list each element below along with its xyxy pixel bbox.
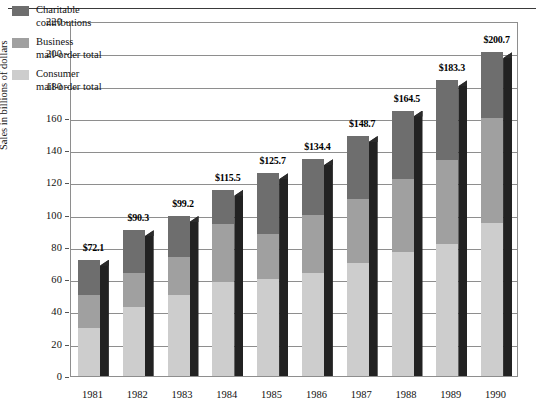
value-label-1986: $134.4 [292,141,343,152]
bar-segment [78,260,100,296]
bar-segment [257,234,279,279]
x-tick-label-1981: 1981 [70,389,115,400]
bar-segment [481,52,503,118]
bar-segment [302,273,324,376]
bar-segment [123,230,145,272]
bar-segment [436,80,458,160]
bar-segment [302,215,324,273]
value-label-1984: $115.5 [202,172,253,183]
bar-side-face-1987 [369,136,378,376]
bar-side-face-1983 [190,216,199,376]
y-tick-mark-40 [65,312,69,313]
bar-segment [212,282,234,376]
value-label-1989: $183.3 [426,62,477,73]
x-tick-label-1986: 1986 [294,389,339,400]
x-tick-label-1988: 1988 [384,389,429,400]
bar-1984[interactable] [212,190,234,376]
bar-side-face-1984 [234,190,243,376]
x-tick-label-1990: 1990 [473,389,518,400]
bar-segment [257,173,279,234]
y-tick-label-100: 100 [0,211,62,221]
bar-segment [123,307,145,376]
y-tick-mark-120 [65,183,69,184]
chart-plot-area [70,22,518,377]
bar-top-face-1985 [279,173,288,179]
bar-1988[interactable] [392,111,414,376]
bar-side-face-1982 [145,230,154,376]
bar-1990[interactable] [481,52,503,376]
legend-swatch-business [12,38,29,48]
bar-1986[interactable] [302,159,324,376]
bar-side-face-1988 [414,111,423,376]
bar-top-face-1989 [458,80,467,86]
legend-swatch-consumer [12,70,29,80]
bar-segment [212,224,234,282]
bar-segment [168,257,190,296]
x-tick-label-1982: 1982 [115,389,160,400]
bar-segment [347,136,369,198]
bar-segment [123,273,145,307]
legend-label-consumer: Consumermail-order total [36,68,102,93]
y-tick-label-20: 20 [0,340,62,350]
value-label-1988: $164.5 [382,93,433,104]
legend-item-consumer[interactable]: Consumermail-order total [12,68,102,93]
value-label-1982: $90.3 [113,212,164,223]
bar-segment [436,244,458,376]
legend-item-business[interactable]: Businessmail-order total [12,36,102,61]
bar-1981[interactable] [78,260,100,376]
x-tick-label-1987: 1987 [339,389,384,400]
bar-segment [392,252,414,376]
bar-top-face-1984 [234,190,243,196]
bar-segment [392,179,414,252]
bar-side-face-1981 [100,260,109,376]
y-tick-mark-100 [65,216,69,217]
x-tick-label-1989: 1989 [428,389,473,400]
bar-side-face-1990 [503,52,512,376]
y-tick-mark-160 [65,119,69,120]
value-label-1981: $72.1 [68,242,119,253]
y-tick-mark-60 [65,280,69,281]
y-tick-label-120: 120 [0,178,62,188]
y-tick-mark-0 [65,377,69,378]
bar-segment [168,216,190,257]
bar-top-face-1986 [324,159,333,165]
value-label-1990: $200.7 [471,34,522,45]
value-label-1985: $125.7 [247,155,298,166]
bar-side-face-1985 [279,173,288,376]
value-label-1983: $99.2 [158,198,209,209]
x-tick-label-1985: 1985 [249,389,294,400]
bar-1989[interactable] [436,80,458,376]
legend-label-charitable: Charitablecontributions [36,4,91,29]
value-label-1987: $148.7 [337,118,388,129]
bar-top-face-1987 [369,136,378,142]
y-tick-label-40: 40 [0,307,62,317]
bar-segment [436,160,458,244]
chart-legend: CharitablecontributionsBusinessmail-orde… [12,4,102,93]
x-tick-label-1984: 1984 [204,389,249,400]
bar-1983[interactable] [168,216,190,376]
bar-1982[interactable] [123,230,145,376]
y-tick-mark-140 [65,151,69,152]
bar-segment [302,159,324,215]
y-tick-label-160: 160 [0,114,62,124]
legend-item-charitable[interactable]: Charitablecontributions [12,4,102,29]
y-tick-label-80: 80 [0,243,62,253]
bar-segment [392,111,414,180]
bar-1985[interactable] [257,173,279,376]
legend-swatch-charitable [12,6,29,16]
bar-side-face-1989 [458,80,467,376]
bar-1987[interactable] [347,136,369,376]
bar-segment [481,223,503,376]
bar-segment [168,295,190,376]
bar-top-face-1981 [100,260,109,266]
bar-top-face-1982 [145,230,154,236]
bar-segment [481,118,503,223]
bar-segment [212,190,234,225]
bar-segment [78,328,100,376]
y-tick-label-140: 140 [0,146,62,156]
bar-segment [347,199,369,264]
y-tick-label-0: 0 [0,372,62,382]
bar-top-face-1988 [414,111,423,117]
x-tick-label-1983: 1983 [160,389,205,400]
gridline-200 [71,55,517,56]
